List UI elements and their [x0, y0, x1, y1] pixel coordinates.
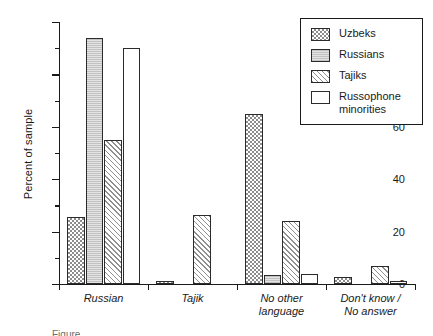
x-tick — [148, 284, 149, 290]
chart-legend: Uzbeks Russians Tajiks Russophone minori… — [300, 18, 423, 125]
y-tick-major — [52, 179, 59, 180]
x-tick — [59, 284, 60, 290]
bar — [371, 266, 389, 284]
y-tick-major — [52, 127, 59, 128]
legend-label-russians: Russians — [339, 48, 384, 61]
bar — [67, 217, 85, 284]
bar — [123, 48, 141, 284]
bar — [334, 277, 352, 284]
legend-swatch-icon-russians — [311, 49, 330, 62]
figure-caption: Figure — [52, 329, 80, 336]
bar — [104, 140, 122, 284]
y-tick-major — [52, 74, 59, 75]
bar — [193, 215, 211, 284]
legend-swatch-icon-russophone-minorities — [311, 91, 330, 104]
bar — [245, 114, 263, 284]
y-tick-major — [52, 22, 59, 23]
x-category-label: Tajik — [181, 292, 203, 305]
bar — [301, 274, 319, 284]
legend-label-uzbeks: Uzbeks — [339, 27, 376, 40]
bar — [264, 275, 282, 284]
x-category-label: Don't know / No answer — [340, 292, 400, 318]
y-tick-major — [52, 284, 59, 285]
y-axis-label: Percent of sample — [22, 79, 34, 229]
x-category-label: Russian — [84, 292, 124, 305]
y-tick-major — [52, 232, 59, 233]
legend-item-russophone-minorities: Russophone minorities — [311, 90, 422, 115]
bar — [156, 281, 174, 284]
legend-item-uzbeks: Uzbeks — [311, 27, 422, 41]
legend-item-tajiks: Tajiks — [311, 69, 422, 83]
bar-chart-figure: Percent of sample 020406080100 RussianTa… — [0, 0, 433, 336]
bar — [86, 38, 104, 284]
legend-label-russophone-minorities: Russophone minorities — [339, 90, 401, 115]
legend-swatch-icon-tajiks — [311, 70, 330, 83]
x-category-label: No other language — [259, 292, 304, 318]
x-tick — [415, 284, 416, 290]
x-tick — [326, 284, 327, 290]
legend-item-russians: Russians — [311, 48, 422, 62]
legend-label-tajiks: Tajiks — [339, 69, 367, 82]
x-tick — [237, 284, 238, 290]
bar — [390, 281, 408, 284]
bar — [282, 221, 300, 284]
legend-swatch-icon-uzbeks — [311, 28, 330, 41]
